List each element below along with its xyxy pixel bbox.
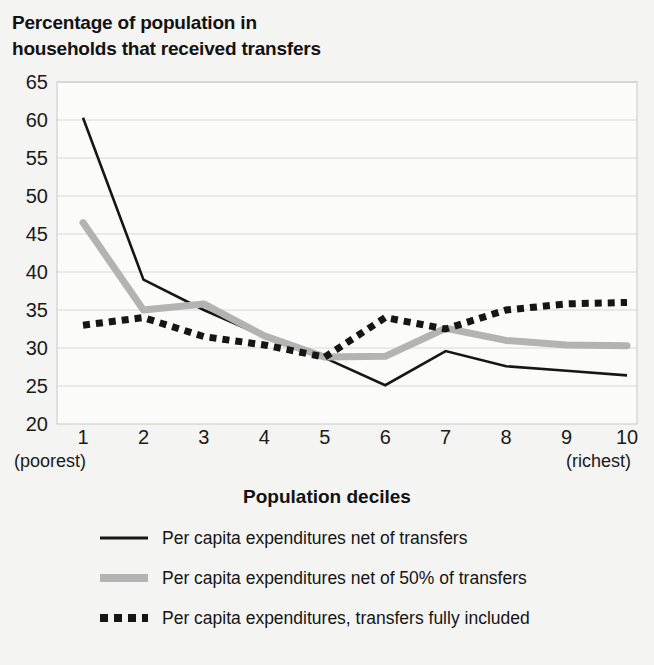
- x-axis-tick-label: 9: [561, 426, 572, 448]
- y-axis-tick-label: 60: [26, 109, 48, 131]
- y-axis-tick-label: 35: [26, 299, 48, 321]
- x-axis-title: Population deciles: [243, 486, 411, 507]
- chart-legend: Per capita expenditures net of transfers…: [100, 528, 530, 628]
- y-axis-tick-label: 55: [26, 147, 48, 169]
- x-axis-tick-label: 7: [440, 426, 451, 448]
- x-axis-tick-label: 4: [259, 426, 270, 448]
- x-axis-richest-note: (richest): [566, 451, 631, 471]
- legend-label-3: Per capita expenditures, transfers fully…: [162, 608, 530, 628]
- y-axis-tick-label: 65: [26, 71, 48, 93]
- x-axis-tick-label: 2: [138, 426, 149, 448]
- x-axis-tick-label: 8: [501, 426, 512, 448]
- y-axis-tick-label: 25: [26, 375, 48, 397]
- legend-label-1: Per capita expenditures net of transfers: [162, 528, 468, 548]
- x-axis-tick-labels: 12345678910: [77, 426, 638, 448]
- y-axis-tick-label: 50: [26, 185, 48, 207]
- x-axis-poorest-note: (poorest): [14, 451, 86, 471]
- y-axis-tick-label: 45: [26, 223, 48, 245]
- chart-root: Percentage of population in households t…: [0, 0, 654, 665]
- x-axis-tick-label: 10: [616, 426, 638, 448]
- y-axis-tick-label: 20: [26, 413, 48, 435]
- line-chart-svg: 20253035404550556065 12345678910 (poores…: [0, 0, 654, 665]
- x-axis-tick-label: 1: [77, 426, 88, 448]
- plot-area-wrapper: 20253035404550556065 12345678910 (poores…: [0, 0, 654, 665]
- x-axis-tick-label: 6: [380, 426, 391, 448]
- x-axis-tick-label: 3: [198, 426, 209, 448]
- x-axis-tick-label: 5: [319, 426, 330, 448]
- legend-label-2: Per capita expenditures net of 50% of tr…: [162, 568, 527, 588]
- y-axis-tick-label: 40: [26, 261, 48, 283]
- y-axis-tick-labels: 20253035404550556065: [26, 71, 48, 435]
- y-axis-tick-label: 30: [26, 337, 48, 359]
- plot-background: [57, 82, 637, 424]
